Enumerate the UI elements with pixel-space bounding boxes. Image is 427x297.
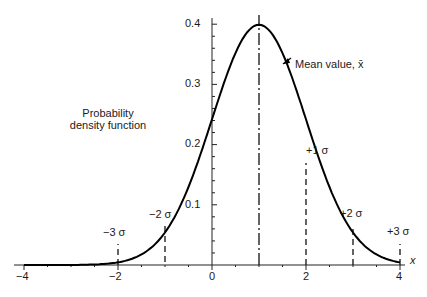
plus-3-sigma-label: +3 σ (387, 225, 409, 237)
x-tick-label: 2 (303, 270, 309, 282)
y-tick-label: 0.4 (185, 17, 200, 29)
minus-3-sigma-label: −3 σ (103, 226, 125, 238)
x-tick-label: −4 (16, 270, 29, 282)
y-label-line-2: density function (38, 119, 178, 131)
y-axis-label: Probability density function (38, 107, 178, 131)
chart: Probability density function Mean value,… (0, 0, 427, 297)
x-tick-label: −2 (109, 270, 122, 282)
x-axis-label: x (410, 254, 416, 266)
x-tick-label: 0 (209, 270, 215, 282)
plus-2-sigma-label: +2 σ (340, 207, 362, 219)
plus-1-sigma-label: +1 σ (306, 144, 328, 156)
y-tick-label: 0.1 (185, 198, 200, 210)
y-tick-label: 0.3 (185, 77, 200, 89)
mean-annotation: Mean value, x̄ (295, 58, 363, 70)
plot-area (0, 0, 427, 297)
y-minor-ticks (212, 24, 217, 253)
x-tick-label: 4 (396, 270, 402, 282)
y-label-line-1: Probability (38, 107, 178, 119)
y-tick-label: 0.2 (185, 137, 200, 149)
minus-2-sigma-label: −2 σ (149, 208, 171, 220)
